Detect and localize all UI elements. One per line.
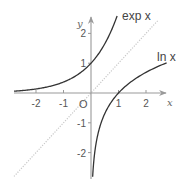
function-plot: -2-11221-1-2 y x O exp x ln x: [0, 0, 188, 190]
axes: -2-11221-1-2: [14, 17, 166, 179]
curve-label-exp: exp x: [122, 9, 151, 23]
curve-exp: [14, 16, 117, 91]
curve-ln: [93, 63, 167, 177]
origin-label: O: [79, 98, 88, 110]
y-tick-label: -2: [77, 148, 86, 159]
y-tick-label: 2: [80, 28, 86, 39]
y-tick-label: -1: [77, 118, 86, 129]
y-axis-label: y: [76, 18, 83, 29]
x-tick-label: 2: [143, 98, 149, 109]
y-tick-label: 1: [80, 58, 86, 69]
x-tick-label: -2: [32, 98, 41, 109]
x-tick-label: -1: [59, 98, 68, 109]
x-tick-label: 1: [116, 98, 122, 109]
curve-label-ln: ln x: [157, 50, 176, 64]
x-axis-label: x: [167, 97, 173, 108]
